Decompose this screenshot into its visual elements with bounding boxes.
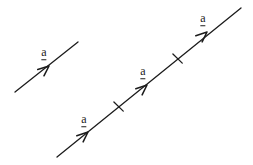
line-group [15,8,241,157]
label-a-1: a [41,46,46,60]
label-a-3: a [140,65,145,79]
vector-diagram: aaaa [0,0,253,165]
vector-canvas [0,0,253,165]
main-collinear-line [57,8,241,157]
label-a-2: a [81,113,86,127]
arrowhead-group [38,29,210,143]
label-a-4: a [200,12,205,26]
